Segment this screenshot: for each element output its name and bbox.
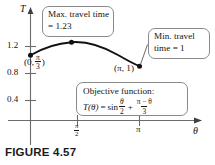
y-axis-arrow xyxy=(28,7,34,14)
point-label-right-endpoint: (π, 1) xyxy=(114,63,134,73)
y-axis-label: T xyxy=(20,3,26,14)
formula-sin: sin xyxy=(108,102,119,113)
min-callout-line-2: time = 1 xyxy=(154,43,205,54)
point-maximum xyxy=(69,40,74,45)
min-callout-leader-line xyxy=(141,45,148,65)
formula-pi-minus-theta-over-3: π − θ 3 xyxy=(136,98,153,115)
x-tick-label-pi: π xyxy=(136,124,141,134)
y-tick-label-0-8: 0.8 xyxy=(7,67,18,77)
min-travel-time-callout: Min. travel time = 1 xyxy=(148,28,210,59)
objective-callout-title: Objective function: xyxy=(83,86,183,97)
figure-container: T θ 1.2 0.8 0.4 π 2 π (0, π 3 ) (π, 1) M… xyxy=(0,0,215,165)
pi-over-2-fraction: π 2 xyxy=(74,123,79,139)
x-tick-label-pi-over-2: π 2 xyxy=(73,123,80,139)
pi-over-3-fraction: π 3 xyxy=(35,54,41,71)
min-callout-line-1: Min. travel xyxy=(154,31,205,42)
point-label-left-endpoint: (0, π 3 ) xyxy=(24,54,45,71)
x-axis-arrow xyxy=(194,117,202,123)
max-travel-time-callout: Max. travel time = 1.23 xyxy=(42,6,114,37)
y-tick-label-0-4: 0.4 xyxy=(7,94,18,104)
formula-equals: = xyxy=(100,102,105,113)
objective-function-callout: Objective function: T(θ) = sin θ 2 + π −… xyxy=(76,82,188,116)
formula-lhs: T(θ) xyxy=(83,102,98,113)
objective-callout-formula: T(θ) = sin θ 2 + π − θ 3 xyxy=(83,99,183,116)
figure-caption: FIGURE 4.57 xyxy=(5,146,76,158)
max-callout-line-2: = 1.23 xyxy=(48,21,109,32)
point-minimum xyxy=(137,64,142,69)
x-axis-label: θ xyxy=(193,125,198,136)
y-tick-label-1-2: 1.2 xyxy=(7,40,18,50)
formula-plus: + xyxy=(128,102,133,113)
max-callout-line-1: Max. travel time xyxy=(48,9,109,20)
formula-theta-over-2: θ 2 xyxy=(119,98,125,115)
